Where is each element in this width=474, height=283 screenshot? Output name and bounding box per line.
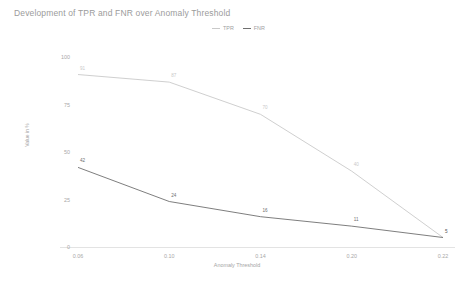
plot-area [0, 0, 474, 283]
y-tick-label: 75 [48, 102, 70, 108]
y-tick-label: 50 [48, 149, 70, 155]
x-tick-label: 0.14 [246, 253, 276, 259]
point-label-tpr: 40 [354, 162, 359, 167]
point-label-tpr: 70 [263, 105, 268, 110]
point-label-fnr: 5 [445, 229, 448, 234]
point-label-fnr: 42 [80, 158, 85, 163]
point-label-fnr: 24 [171, 193, 176, 198]
x-tick-label: 0.10 [154, 253, 184, 259]
x-tick-label: 0.06 [63, 253, 93, 259]
series-line-fnr [78, 167, 443, 237]
point-label-fnr: 16 [263, 208, 268, 213]
point-label-tpr: 87 [171, 73, 176, 78]
series-line-tpr [78, 75, 443, 238]
y-tick-label: 100 [48, 54, 70, 60]
x-tick-label: 0.20 [337, 253, 367, 259]
chart-container: Development of TPR and FNR over Anomaly … [0, 0, 474, 283]
x-tick-label: 0.22 [428, 253, 458, 259]
y-tick-label: 0 [48, 244, 70, 250]
series-lines [78, 75, 443, 238]
x-axis-title: Anomaly Threshold [0, 262, 474, 268]
point-label-fnr: 11 [354, 217, 359, 222]
y-tick-label: 25 [48, 197, 70, 203]
point-label-tpr: 91 [80, 66, 85, 71]
y-axis-title: Value in % [24, 105, 30, 165]
